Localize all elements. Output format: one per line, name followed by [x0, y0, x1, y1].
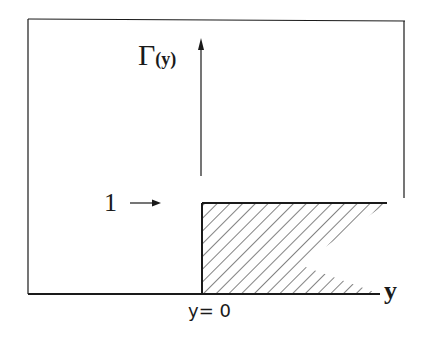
x-axis-label: y — [384, 276, 397, 306]
diagram-canvas — [0, 0, 427, 347]
y-axis-arg: (y) — [155, 49, 176, 69]
level-label: 1 — [104, 188, 117, 218]
arrowhead-icon — [198, 38, 204, 50]
origin-label: y= 0 — [188, 300, 231, 321]
y-axis — [198, 38, 204, 176]
level-arrow-icon — [130, 200, 161, 207]
hatched-region — [202, 203, 387, 294]
y-axis-label: Γ(y) — [138, 38, 176, 72]
